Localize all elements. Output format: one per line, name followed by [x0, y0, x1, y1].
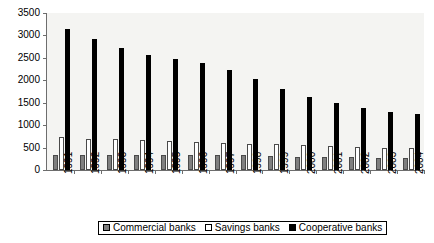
- y-axis-tick-label: 0: [6, 165, 40, 175]
- y-axis-tick-label: 3500: [6, 8, 40, 18]
- y-axis-tick: [43, 35, 47, 36]
- bar-group: [322, 13, 339, 170]
- legend-item-savings: Savings banks: [205, 223, 280, 233]
- bar-group: [403, 13, 420, 170]
- y-axis-tick: [43, 80, 47, 81]
- x-axis-label-1999: 1999: [280, 152, 290, 174]
- bar-group: [268, 13, 285, 170]
- bar-commercial-1999: [268, 156, 273, 170]
- bar-commercial-2002: [349, 157, 354, 170]
- bar-group: [349, 13, 366, 170]
- legend-label: Savings banks: [215, 223, 280, 233]
- y-axis-tick-label: 2000: [6, 75, 40, 85]
- legend-label: Cooperative banks: [299, 223, 382, 233]
- bar-group: [53, 13, 70, 170]
- x-axis-label-2001: 2001: [334, 152, 344, 174]
- x-axis-label-1993: 1993: [118, 152, 128, 174]
- commercial-swatch-icon: [103, 224, 110, 231]
- bar-group: [188, 13, 205, 170]
- x-axis-tick: [74, 170, 75, 174]
- x-axis-label-1995: 1995: [172, 152, 182, 174]
- x-axis-label-1994: 1994: [145, 152, 155, 174]
- x-axis-label-1991: 1991: [64, 152, 74, 174]
- savings-swatch-icon: [205, 224, 212, 231]
- bar-commercial-1998: [241, 155, 246, 170]
- y-axis-tick: [43, 125, 47, 126]
- bar-commercial-1993: [107, 155, 112, 170]
- bar-group: [107, 13, 124, 170]
- bar-group: [134, 13, 151, 170]
- bar-group: [376, 13, 393, 170]
- bar-group: [241, 13, 258, 170]
- bar-group: [161, 13, 178, 170]
- y-axis-tick: [43, 58, 47, 59]
- bar-commercial-2004: [403, 158, 408, 170]
- bar-commercial-1997: [215, 155, 220, 170]
- bar-group: [295, 13, 312, 170]
- x-axis-label-2002: 2002: [361, 152, 371, 174]
- bar-chart: 0500100015002000250030003500 19911992199…: [0, 0, 434, 243]
- bar-group: [215, 13, 232, 170]
- bar-commercial-1996: [188, 155, 193, 170]
- x-axis-label-1997: 1997: [226, 152, 236, 174]
- plot-area: [46, 13, 424, 171]
- bar-commercial-2003: [376, 158, 381, 170]
- bar-group: [80, 13, 97, 170]
- legend-item-commercial: Commercial banks: [103, 223, 196, 233]
- y-axis-tick-label: 500: [6, 143, 40, 153]
- x-axis-label-1992: 1992: [91, 152, 101, 174]
- x-axis-label-1996: 1996: [199, 152, 209, 174]
- bar-cooperative-1992: [92, 39, 97, 170]
- bar-commercial-2001: [322, 157, 327, 170]
- x-axis-label-2003: 2003: [388, 152, 398, 174]
- y-axis-tick: [43, 170, 47, 171]
- y-axis-tick-label: 2500: [6, 53, 40, 63]
- y-axis-tick: [43, 148, 47, 149]
- bar-cooperative-1991: [65, 29, 70, 170]
- x-axis-label-2004: 2004: [415, 152, 425, 174]
- chart-legend: Commercial banksSavings banksCooperative…: [98, 221, 387, 235]
- bar-commercial-1994: [134, 155, 139, 170]
- legend-item-cooperative: Cooperative banks: [289, 223, 382, 233]
- x-axis-label-2000: 2000: [307, 152, 317, 174]
- bar-commercial-1991: [53, 155, 58, 170]
- y-axis-tick: [43, 13, 47, 14]
- bar-commercial-1992: [80, 155, 85, 170]
- y-axis-tick-label: 1000: [6, 120, 40, 130]
- legend-label: Commercial banks: [113, 223, 196, 233]
- cooperative-swatch-icon: [289, 224, 296, 231]
- y-axis-tick: [43, 103, 47, 104]
- bar-commercial-2000: [295, 157, 300, 170]
- x-axis-label-1998: 1998: [253, 152, 263, 174]
- bar-commercial-1995: [161, 155, 166, 170]
- y-axis-tick-label: 1500: [6, 98, 40, 108]
- y-axis-tick-label: 3000: [6, 30, 40, 40]
